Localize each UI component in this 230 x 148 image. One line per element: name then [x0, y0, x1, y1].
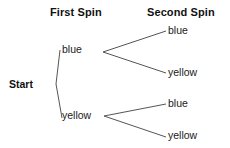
node-first-spin-yellow: yellow [62, 110, 91, 121]
node-first-spin-blue: blue [62, 44, 82, 55]
node-start: Start [9, 79, 33, 90]
branch-yellow-to-blue [104, 104, 166, 116]
branch-start-to-blue [56, 50, 60, 84]
node-second-spin-blue-yellow: yellow [168, 67, 197, 78]
branch-yellow-to-yellow [104, 116, 166, 137]
branch-blue-to-yellow [103, 52, 166, 73]
node-second-spin-yellow-yellow: yellow [168, 130, 197, 141]
node-second-spin-yellow-blue: blue [168, 98, 188, 109]
node-second-spin-blue-blue: blue [168, 25, 188, 36]
column-header-first-spin: First Spin [50, 7, 102, 18]
branch-blue-to-blue [103, 31, 166, 52]
column-header-second-spin: Second Spin [147, 7, 215, 18]
tree-diagram: First Spin Second Spin Start blue yellow… [0, 0, 230, 148]
